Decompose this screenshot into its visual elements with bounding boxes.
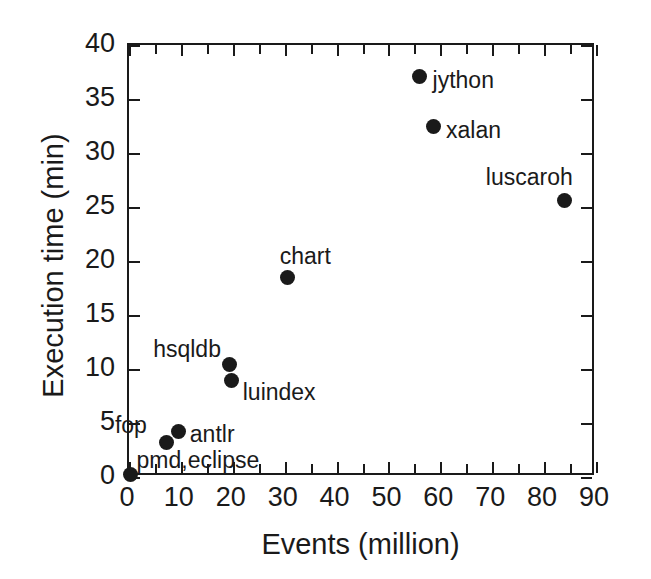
y-axis-tick xyxy=(581,315,592,317)
x-axis-tick-label: 70 xyxy=(475,484,505,511)
x-axis-tick xyxy=(337,462,339,473)
x-axis-tick-label: 0 xyxy=(119,484,134,511)
data-point-label: jython xyxy=(433,69,494,92)
x-axis-minor-tick xyxy=(363,464,365,473)
data-point xyxy=(222,357,237,372)
x-axis-tick xyxy=(285,462,287,473)
x-axis-minor-tick xyxy=(466,464,468,473)
y-axis-title: Execution time (min) xyxy=(37,50,70,482)
data-point-label: luscaroh xyxy=(486,166,573,189)
x-axis-tick xyxy=(596,462,598,473)
y-axis-tick xyxy=(581,153,592,155)
x-axis-tick xyxy=(388,462,390,473)
y-axis-tick-label: 35 xyxy=(85,84,115,111)
scatter-chart-figure: 0510152025303540 0102030405060708090 Exe… xyxy=(0,0,651,579)
data-point-label: xalan xyxy=(446,119,501,142)
y-axis-tick-label: 5 xyxy=(100,408,115,435)
x-axis-minor-tick xyxy=(414,45,416,54)
data-point-label: fop xyxy=(115,414,147,437)
x-axis-tick xyxy=(440,462,442,473)
x-axis-minor-tick xyxy=(570,45,572,54)
data-point xyxy=(412,69,427,84)
x-axis-title: Events (million) xyxy=(127,528,594,561)
y-axis-tick-label: 10 xyxy=(85,354,115,381)
x-axis-minor-tick xyxy=(311,464,313,473)
plot-area: pmd,eclipsefopantlrluindexhsqldbchartjyt… xyxy=(127,43,594,475)
y-axis-tick xyxy=(129,315,140,317)
x-axis-tick-label: 30 xyxy=(268,484,298,511)
x-axis-minor-tick xyxy=(363,45,365,54)
data-point xyxy=(280,270,295,285)
x-axis-tick-label: 20 xyxy=(216,484,246,511)
y-axis-tick-label: 20 xyxy=(85,246,115,273)
y-axis-tick xyxy=(581,207,592,209)
x-axis-tick xyxy=(337,45,339,56)
data-point xyxy=(171,424,186,439)
y-axis-tick xyxy=(129,261,140,263)
x-axis-minor-tick xyxy=(311,45,313,54)
x-axis-tick xyxy=(596,45,598,56)
data-point-label: luindex xyxy=(243,381,316,404)
data-point xyxy=(224,373,239,388)
data-point-label: pmd,eclipse xyxy=(137,449,260,472)
x-axis-tick xyxy=(492,45,494,56)
y-axis-tick xyxy=(581,423,592,425)
x-axis-tick xyxy=(285,45,287,56)
x-axis-tick xyxy=(233,45,235,56)
y-axis-tick xyxy=(581,261,592,263)
y-axis-tick xyxy=(129,207,140,209)
x-axis-tick-labels: 0102030405060708090 xyxy=(127,484,594,524)
y-axis-tick-label: 30 xyxy=(85,138,115,165)
data-point xyxy=(557,193,572,208)
y-axis-tick-label: 15 xyxy=(85,300,115,327)
x-axis-tick-label: 60 xyxy=(423,484,453,511)
y-axis-tick xyxy=(129,369,140,371)
x-axis-tick xyxy=(181,45,183,56)
x-axis-minor-tick xyxy=(518,45,520,54)
x-axis-tick xyxy=(388,45,390,56)
y-axis-tick xyxy=(129,153,140,155)
x-axis-minor-tick xyxy=(466,45,468,54)
x-axis-tick-label: 10 xyxy=(164,484,194,511)
x-axis-tick xyxy=(492,462,494,473)
x-axis-minor-tick xyxy=(207,45,209,54)
x-axis-tick-label: 50 xyxy=(371,484,401,511)
x-axis-minor-tick xyxy=(414,464,416,473)
data-point-label: hsqldb xyxy=(153,338,221,361)
x-axis-tick-label: 90 xyxy=(579,484,609,511)
y-axis-tick xyxy=(581,369,592,371)
x-axis-tick xyxy=(440,45,442,56)
data-point-label: antlr xyxy=(190,423,235,446)
y-axis-tick-label: 0 xyxy=(100,462,115,489)
y-axis-tick xyxy=(581,45,592,47)
x-axis-minor-tick xyxy=(570,464,572,473)
x-axis-tick xyxy=(544,45,546,56)
y-axis-tick-label: 40 xyxy=(85,30,115,57)
y-axis-tick xyxy=(581,477,592,479)
x-axis-tick-label: 80 xyxy=(527,484,557,511)
y-axis-tick-label: 25 xyxy=(85,192,115,219)
x-axis-minor-tick xyxy=(518,464,520,473)
data-point-label: chart xyxy=(280,245,331,268)
x-axis-minor-tick xyxy=(259,45,261,54)
y-axis-tick xyxy=(581,99,592,101)
x-axis-tick xyxy=(544,462,546,473)
x-axis-tick-label: 40 xyxy=(320,484,350,511)
x-axis-minor-tick xyxy=(155,45,157,54)
x-axis-tick xyxy=(129,45,131,56)
data-point xyxy=(426,119,441,134)
y-axis-tick xyxy=(129,99,140,101)
